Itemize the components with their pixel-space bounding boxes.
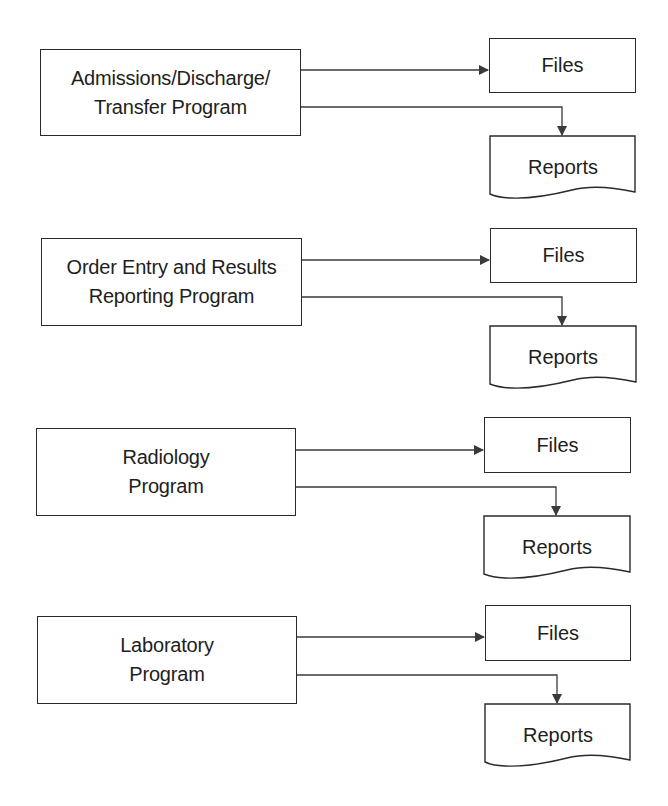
- flowchart-diagram: Admissions/Discharge/ Transfer Program F…: [0, 0, 668, 806]
- reports-label-radiology: Reports: [484, 535, 630, 559]
- program-box-adt: Admissions/Discharge/ Transfer Program: [40, 49, 301, 136]
- program-label-line1: Order Entry and Results: [67, 253, 277, 282]
- arrow-to-reports: [300, 107, 562, 135]
- files-label: Files: [536, 434, 578, 457]
- program-box-laboratory: Laboratory Program: [37, 616, 297, 704]
- arrow-to-reports: [301, 297, 562, 325]
- program-label-line1: Laboratory: [120, 631, 214, 660]
- program-label-line1: Admissions/Discharge/: [71, 64, 270, 93]
- reports-label-adt: Reports: [490, 155, 636, 179]
- program-label-line2: Program: [128, 472, 203, 501]
- program-box-order-entry: Order Entry and Results Reporting Progra…: [41, 238, 302, 326]
- arrow-to-reports: [295, 487, 556, 515]
- arrow-to-reports: [296, 675, 557, 703]
- program-label-line2: Transfer Program: [94, 93, 247, 122]
- files-box-order-entry: Files: [490, 228, 637, 283]
- reports-label-laboratory: Reports: [485, 723, 631, 747]
- program-label-line2: Reporting Program: [89, 282, 255, 311]
- files-label: Files: [537, 622, 579, 645]
- program-box-radiology: Radiology Program: [36, 428, 296, 516]
- files-label: Files: [541, 54, 583, 77]
- files-box-laboratory: Files: [485, 605, 631, 661]
- reports-label-order-entry: Reports: [490, 345, 636, 369]
- program-label-line1: Radiology: [122, 443, 209, 472]
- files-label: Files: [542, 244, 584, 267]
- files-box-radiology: Files: [484, 417, 631, 473]
- files-box-adt: Files: [489, 38, 636, 93]
- program-label-line2: Program: [129, 660, 204, 689]
